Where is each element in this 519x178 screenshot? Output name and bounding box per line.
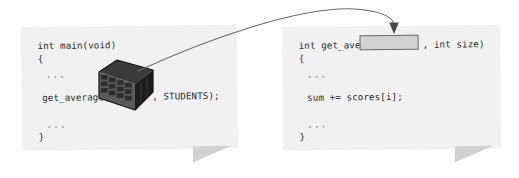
callee-close-brace: } — [299, 132, 305, 141]
array-parameter-slot[interactable] — [360, 35, 419, 51]
callee-body-statement: sum += scores[i]; — [307, 92, 403, 102]
callee-code-block: int get_average( , int size) { ... sum +… — [282, 25, 500, 149]
caller-card-fold — [193, 146, 231, 162]
callee-card-fold — [455, 146, 493, 162]
callee-signature-suffix: , int size) — [423, 39, 485, 49]
caller-close-brace: } — [39, 132, 45, 141]
caller-open-brace: { — [38, 54, 44, 63]
callee-open-brace: { — [299, 54, 305, 63]
caller-signature: int main(void) — [37, 40, 116, 50]
caller-ellipsis-bottom: ... — [46, 120, 66, 129]
callee-ellipsis-top: ... — [307, 70, 327, 79]
caller-call-suffix: , STUDENTS); — [152, 91, 220, 101]
diagram-canvas: int main(void) { ... get_average( , STUD… — [0, 0, 519, 178]
caller-ellipsis-top: ... — [46, 70, 66, 79]
callee-ellipsis-bottom: ... — [307, 120, 327, 129]
array-crate-icon — [97, 58, 155, 114]
callee-code-card: int get_average( , int size) { ... sum +… — [282, 25, 500, 149]
